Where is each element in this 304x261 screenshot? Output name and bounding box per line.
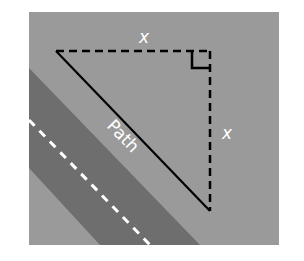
path-diagram: x x Path — [0, 0, 304, 261]
top-side-label: x — [138, 27, 150, 47]
right-side-label: x — [221, 123, 233, 143]
